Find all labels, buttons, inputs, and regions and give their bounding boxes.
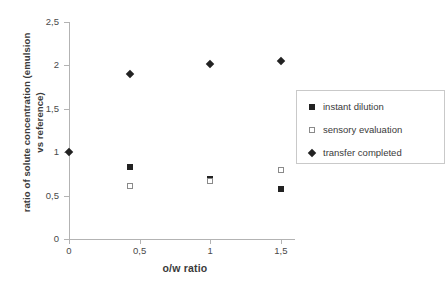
data-point-filled-square xyxy=(278,186,284,192)
legend-marker-open-square-icon xyxy=(305,127,319,133)
marker-glyph xyxy=(309,104,315,110)
legend-item[interactable]: instant dilution xyxy=(305,100,384,114)
y-axis-title-line2: vs reference) xyxy=(33,92,44,152)
scatter-chart: 00,511,522,5 00,511,5 ratio of solute co… xyxy=(0,0,448,293)
y-axis-title-line1: ratio of solute concentration (emulsion xyxy=(21,33,32,213)
x-tick-label: 0,5 xyxy=(125,246,155,256)
legend-item[interactable]: sensory evaluation xyxy=(305,123,402,137)
legend-item[interactable]: transfer completed xyxy=(305,146,402,160)
data-point-filled-diamond xyxy=(125,70,133,78)
x-tick-label: 1,5 xyxy=(266,246,296,256)
y-tick-mark xyxy=(64,196,70,197)
y-axis-line xyxy=(69,22,70,240)
x-tick-mark xyxy=(140,239,141,244)
data-point-filled-diamond xyxy=(65,148,73,156)
marker-glyph xyxy=(309,127,315,133)
data-point-filled-diamond xyxy=(277,57,285,65)
x-tick-label: 1 xyxy=(195,246,225,256)
data-point-filled-diamond xyxy=(206,59,214,67)
marker-glyph xyxy=(308,149,316,157)
x-tick-mark xyxy=(69,239,70,244)
data-point-filled-square xyxy=(127,164,133,170)
data-point-open-square xyxy=(278,167,284,173)
x-tick-label: 0 xyxy=(54,246,84,256)
legend-item-label: instant dilution xyxy=(323,102,384,112)
x-tick-mark xyxy=(281,239,282,244)
legend-marker-filled-diamond-icon xyxy=(305,150,319,156)
chart-legend: instant dilutionsensory evaluationtransf… xyxy=(296,90,445,164)
y-tick-mark xyxy=(64,22,70,23)
x-axis-line xyxy=(69,239,295,240)
data-point-open-square xyxy=(207,178,213,184)
x-axis-title: o/w ratio xyxy=(105,262,265,274)
y-tick-mark xyxy=(64,109,70,110)
y-axis-title: ratio of solute concentration (emulsion … xyxy=(21,8,46,238)
legend-marker-filled-square-icon xyxy=(305,104,319,110)
y-tick-mark xyxy=(64,65,70,66)
legend-item-label: sensory evaluation xyxy=(323,125,402,135)
legend-item-label: transfer completed xyxy=(323,148,402,158)
data-point-open-square xyxy=(127,183,133,189)
x-tick-mark xyxy=(210,239,211,244)
